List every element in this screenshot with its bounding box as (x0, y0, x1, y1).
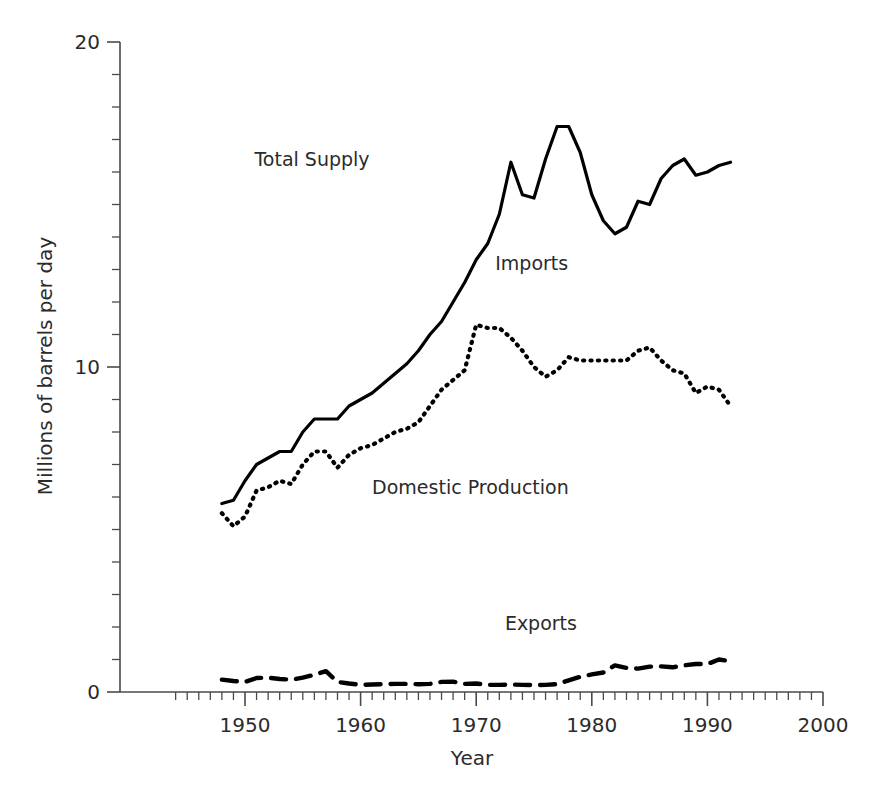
x-tick-label: 1980 (566, 713, 617, 737)
annotation-total-supply: Total Supply (253, 148, 369, 170)
y-axis-title: Millions of barrels per day (33, 237, 57, 496)
x-axis-title: Year (450, 746, 494, 770)
x-tick-label: 1970 (451, 713, 502, 737)
x-tick-label: 1950 (220, 713, 271, 737)
annotation-imports: Imports (495, 252, 568, 274)
x-tick-label: 1990 (682, 713, 733, 737)
y-tick-label: 0 (87, 680, 100, 704)
axes (120, 42, 823, 692)
x-tick-label: 1960 (335, 713, 386, 737)
axis-ticks (107, 42, 823, 706)
series-line-exports (222, 660, 731, 686)
x-tick-label: 2000 (798, 713, 849, 737)
axis-tick-labels: 01020195019601970198019902000 (75, 30, 849, 737)
annotation-exports: Exports (505, 612, 577, 634)
y-tick-label: 10 (75, 355, 100, 379)
chart-container: 01020195019601970198019902000 Total Supp… (0, 0, 887, 793)
y-tick-label: 20 (75, 30, 100, 54)
series-annotations: Total SupplyImportsDomestic ProductionEx… (253, 148, 577, 635)
data-series (222, 127, 731, 686)
annotation-domestic-production: Domestic Production (372, 476, 569, 498)
series-line-total-supply (222, 127, 731, 504)
line-chart: 01020195019601970198019902000 Total Supp… (0, 0, 887, 793)
